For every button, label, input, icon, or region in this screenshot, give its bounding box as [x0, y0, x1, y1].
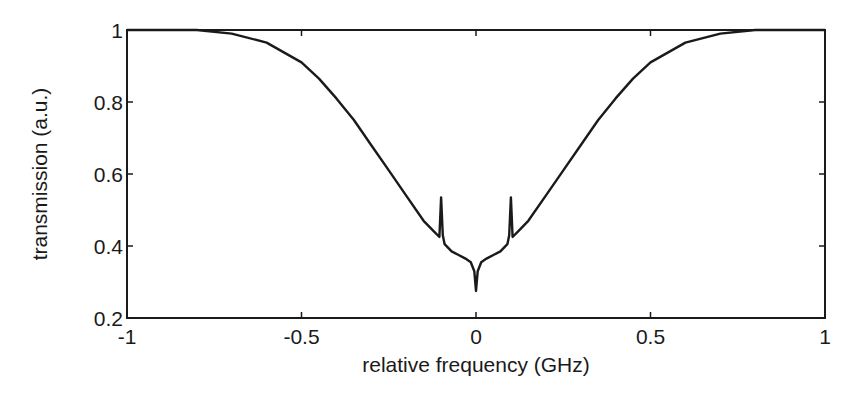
y-tick-label: 0.6	[94, 163, 123, 186]
x-tick-label: 1	[819, 325, 831, 348]
x-tick-label: -0.5	[283, 325, 319, 348]
y-axis-label: transmission (a.u.)	[28, 88, 51, 261]
x-tick-label: 0	[470, 325, 482, 348]
plot-frame	[127, 30, 825, 318]
chart: -1-0.500.51 0.20.40.60.81 relative frequ…	[0, 0, 861, 397]
y-tick-label: 0.2	[94, 307, 123, 330]
y-tick-label: 0.8	[94, 91, 123, 114]
y-tick-labels: 0.20.40.60.81	[94, 19, 124, 330]
x-tick-label: 0.5	[636, 325, 665, 348]
x-tick-labels: -1-0.500.51	[118, 325, 831, 348]
x-axis-label: relative frequency (GHz)	[362, 353, 590, 376]
y-tick-label: 0.4	[94, 235, 124, 258]
axis-ticks	[127, 30, 825, 318]
transmission-curve	[127, 30, 825, 291]
y-tick-label: 1	[111, 19, 123, 42]
